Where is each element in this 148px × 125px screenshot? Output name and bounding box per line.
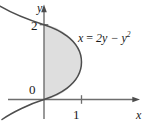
y-axis-label: y	[37, 2, 42, 14]
figure-container: y x 2 0 1 x = 2y − y2	[0, 0, 148, 125]
x-tick-label-1: 1	[73, 108, 80, 121]
curve-equation-label: x = 2y − y2	[78, 31, 131, 44]
equation-rhs: 2y − y	[96, 31, 127, 45]
shaded-region	[44, 25, 82, 100]
y-tick-label-2: 2	[31, 19, 38, 32]
equation-exponent: 2	[127, 30, 131, 39]
equation-equals: =	[83, 31, 96, 45]
x-axis-arrow-icon	[132, 97, 140, 103]
x-axis-label: x	[136, 109, 141, 121]
origin-label: 0	[29, 83, 36, 96]
